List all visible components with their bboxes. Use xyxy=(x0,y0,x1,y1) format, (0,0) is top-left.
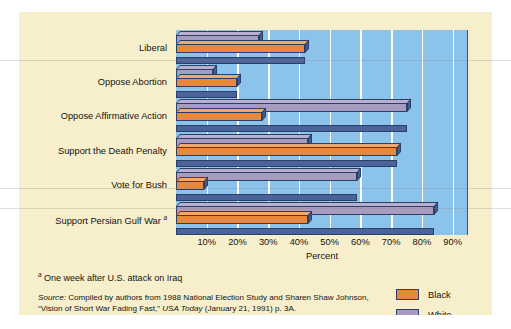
bar-top-face xyxy=(176,202,439,206)
source-text-part2: (January 21, 1991) p. 3A. xyxy=(203,304,297,313)
bar-side-face xyxy=(434,201,438,214)
bar-base-shadow xyxy=(176,125,407,132)
bar-group xyxy=(176,69,468,94)
x-tick-label: 30% xyxy=(259,237,278,247)
legend-item[interactable]: Black xyxy=(396,288,488,301)
category-label: Support Persian Gulf War a xyxy=(55,215,167,226)
bar-front-face xyxy=(176,78,237,87)
bar-top-face xyxy=(176,74,242,78)
chart-figure: LiberalOppose AbortionOppose Affirmative… xyxy=(19,12,492,315)
bar-side-face xyxy=(407,99,411,112)
gridline xyxy=(453,30,455,235)
bar-top-face xyxy=(176,31,263,35)
plot-wrapper xyxy=(176,30,468,235)
bar-black[interactable] xyxy=(176,78,237,87)
category-footnote-marker: a xyxy=(163,214,167,221)
x-tick-label: 80% xyxy=(413,237,432,247)
bar-base-shadow xyxy=(176,194,357,201)
bar-top-face xyxy=(176,65,217,69)
legend-item[interactable]: White xyxy=(396,308,488,315)
bar-side-face xyxy=(262,108,266,121)
bar-front-face xyxy=(176,112,262,121)
bar-base-shadow xyxy=(176,160,397,167)
bar-top-face xyxy=(176,168,362,172)
source-prefix: Source: xyxy=(38,293,66,302)
bar-side-face xyxy=(237,74,241,87)
x-tick-label: 20% xyxy=(228,237,247,247)
legend-label: Black xyxy=(428,290,451,300)
x-axis-title: Percent xyxy=(176,251,468,261)
bar-front-face xyxy=(176,147,397,156)
x-axis-ticks: 10%20%30%40%50%60%70%80%90% xyxy=(176,237,468,251)
x-tick-label: 10% xyxy=(197,237,216,247)
bar-top-face xyxy=(176,134,313,138)
bar-side-face xyxy=(357,167,361,180)
x-tick-label: 60% xyxy=(351,237,370,247)
bar-base-shadow xyxy=(176,228,434,235)
bar-top-face xyxy=(176,211,313,215)
bar-group xyxy=(176,103,468,128)
category-label: Liberal xyxy=(139,44,167,53)
footnote-marker: a xyxy=(38,271,42,278)
bar-black[interactable] xyxy=(176,44,305,53)
bar-top-face xyxy=(176,108,267,112)
bar-side-face xyxy=(305,40,309,53)
bar-black[interactable] xyxy=(176,112,262,121)
bar-front-face xyxy=(176,215,308,224)
bar-black[interactable] xyxy=(176,181,204,190)
bar-black[interactable] xyxy=(176,147,397,156)
footnote-text: One week after U.S. attack on Iraq xyxy=(44,273,182,283)
source-publication: USA Today xyxy=(162,304,202,313)
bar-front-face xyxy=(176,181,204,190)
bar-side-face xyxy=(308,210,312,223)
legend: BlackWhite xyxy=(396,288,488,315)
category-label: Vote for Bush xyxy=(111,181,167,190)
bar-top-face xyxy=(176,143,402,147)
footnote: a One week after U.S. attack on Iraq xyxy=(38,271,182,283)
bar-base-shadow xyxy=(176,57,305,64)
bar-group xyxy=(176,172,468,197)
category-label: Oppose Abortion xyxy=(98,78,167,87)
x-tick-label: 40% xyxy=(290,237,309,247)
bar-group xyxy=(176,206,468,231)
category-label: Support the Death Penalty xyxy=(58,147,167,156)
x-tick-label: 50% xyxy=(320,237,339,247)
legend-swatch xyxy=(396,289,419,300)
bar-front-face xyxy=(176,44,305,53)
bar-group xyxy=(176,138,468,163)
bar-group xyxy=(176,35,468,60)
bar-base-shadow xyxy=(176,91,237,98)
x-tick-label: 70% xyxy=(382,237,401,247)
bar-top-face xyxy=(176,40,310,44)
x-tick-label: 90% xyxy=(443,237,462,247)
bar-side-face xyxy=(397,142,401,155)
legend-label: White xyxy=(428,310,452,316)
category-label: Oppose Affirmative Action xyxy=(61,112,167,121)
legend-swatch xyxy=(396,309,419,315)
bar-black[interactable] xyxy=(176,215,308,224)
source-citation: Source: Compiled by authors from 1988 Na… xyxy=(38,292,378,315)
bar-top-face xyxy=(176,99,411,103)
category-axis-labels: LiberalOppose AbortionOppose Affirmative… xyxy=(19,30,171,235)
